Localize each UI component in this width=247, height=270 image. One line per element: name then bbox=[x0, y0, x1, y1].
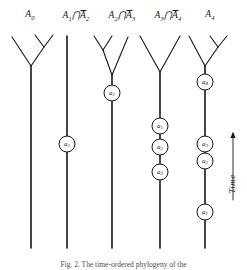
coalescence-branch bbox=[210, 36, 218, 47]
figure-caption: Fig. 2. The time-ordered phylogeny of th… bbox=[0, 260, 247, 270]
event-label-subscript: 1 bbox=[68, 143, 71, 148]
event-node-label: a3 bbox=[202, 140, 208, 149]
event-label-subscript: 3 bbox=[206, 143, 209, 148]
coalescence-branch bbox=[103, 50, 112, 75]
coalescence-branch bbox=[94, 36, 103, 50]
coalescence-branch bbox=[140, 36, 160, 72]
event-node-label: a1 bbox=[64, 140, 70, 149]
lineage-col-0 bbox=[12, 35, 53, 248]
tree-drawing-canvas bbox=[0, 0, 247, 270]
coalescence-branch bbox=[218, 36, 227, 47]
event-node-label: a2 bbox=[202, 157, 208, 166]
coalescence-branch bbox=[12, 37, 31, 66]
lineage-col-2 bbox=[94, 36, 128, 248]
event-node-label: a1 bbox=[202, 208, 208, 217]
coalescence-branch bbox=[160, 36, 180, 72]
coalescence-branch bbox=[112, 37, 128, 75]
event-label-subscript: 2 bbox=[206, 160, 209, 165]
event-node-label: a3 bbox=[157, 168, 163, 177]
coalescence-branch bbox=[35, 35, 44, 47]
coalescence-branch bbox=[205, 47, 218, 66]
coalescence-branch bbox=[31, 47, 44, 66]
coalescence-branch bbox=[44, 35, 53, 47]
lineage-col-4 bbox=[189, 36, 227, 248]
event-node-label: a2 bbox=[157, 143, 163, 152]
coalescence-branch bbox=[189, 36, 205, 66]
event-label-subscript: 3 bbox=[161, 171, 164, 176]
event-node-label: a1 bbox=[109, 89, 115, 98]
event-label-subscript: 1 bbox=[206, 211, 209, 216]
event-label-subscript: 1 bbox=[113, 92, 116, 97]
event-label-subscript: 2 bbox=[161, 146, 164, 151]
coalescence-branch bbox=[103, 36, 112, 50]
event-label-subscript: 4 bbox=[206, 81, 209, 86]
event-node-label: a4 bbox=[202, 78, 208, 87]
time-axis-label: Time bbox=[227, 174, 237, 193]
coalescent-tree-figure: A0 A1⋂A2 A2⋂A3 A3⋂A4 A4 Time Fig. 2. The… bbox=[0, 0, 247, 270]
event-label-subscript: 1 bbox=[161, 125, 164, 130]
event-node-label: a1 bbox=[157, 122, 163, 131]
